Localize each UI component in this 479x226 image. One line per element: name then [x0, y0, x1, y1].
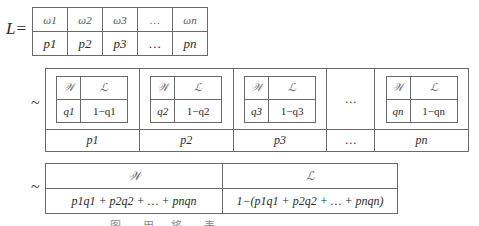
weight-cell: pn	[375, 130, 469, 152]
lose-prob: 1−q2	[175, 99, 222, 122]
weight-cell: p2	[139, 130, 233, 152]
lose-header: ℒ	[269, 76, 316, 99]
sub-lottery-row: 𝒲 ℒ q1 1−q1 𝒲 ℒ q2 1−q2 𝒲 ℒ q3 1−q3	[46, 69, 469, 130]
outcome-cell: …	[138, 8, 173, 32]
outcome-cell: ω3	[103, 8, 138, 32]
win-probability: p1q1 + p2q2 + … + pnqn	[46, 189, 223, 214]
outcome-row: ω1 ω2 ω3 … ωn	[33, 8, 208, 32]
weight-row: p1 p2 p3 … pn	[46, 130, 469, 152]
win-header: 𝒲	[57, 76, 81, 99]
L-equals-label: L=	[6, 19, 27, 39]
probability-cell: p2	[68, 32, 103, 56]
lose-probability: 1−(p1q1 + p2q2 + … + pnqn)	[223, 189, 398, 214]
sub-lottery-table: 𝒲 ℒ qn 1−qn	[386, 76, 458, 123]
figure-caption: 图 … 用 …将 … 表 …	[110, 217, 233, 226]
outcome-cell: ω2	[68, 8, 103, 32]
sub-lottery-table: 𝒲 ℒ q3 1−q3	[244, 76, 316, 123]
probability-cell: pn	[173, 32, 208, 56]
probability-cell: p3	[103, 32, 138, 56]
probability-row: p1 p2 p3 … pn	[33, 32, 208, 56]
weight-cell: p1	[46, 130, 140, 152]
lose-prob: 1−q3	[269, 99, 316, 122]
win-header: 𝒲	[245, 76, 269, 99]
win-header: 𝒲	[46, 164, 223, 189]
compound-lottery-table: 𝒲 ℒ q1 1−q1 𝒲 ℒ q2 1−q2 𝒲 ℒ q3 1−q3	[45, 68, 469, 152]
lose-prob: 1−q1	[81, 99, 128, 122]
sub-lottery-table: 𝒲 ℒ q2 1−q2	[150, 76, 222, 123]
value-row: p1q1 + p2q2 + … + pnqn 1−(p1q1 + p2q2 + …	[46, 189, 398, 214]
weight-cell: p3	[233, 130, 327, 152]
equivalence-tilde: ~	[31, 178, 40, 196]
win-prob: q2	[151, 99, 175, 122]
sub-lottery-cell: 𝒲 ℒ q1 1−q1	[46, 69, 140, 130]
lose-header: ℒ	[81, 76, 128, 99]
lose-header: ℒ	[175, 76, 222, 99]
win-prob: q3	[245, 99, 269, 122]
reduced-lottery-table: 𝒲 ℒ p1q1 + p2q2 + … + pnqn 1−(p1q1 + p2q…	[45, 163, 398, 214]
lose-header: ℒ	[410, 76, 457, 99]
distribution-L-table: ω1 ω2 ω3 … ωn p1 p2 p3 … pn	[32, 7, 208, 56]
probability-cell: p1	[33, 32, 68, 56]
outcome-cell: ωn	[173, 8, 208, 32]
equivalence-tilde: ~	[31, 94, 40, 112]
outcome-cell: ω1	[33, 8, 68, 32]
win-prob: qn	[386, 99, 410, 122]
lose-header: ℒ	[223, 164, 398, 189]
probability-cell: …	[138, 32, 173, 56]
weight-cell: …	[327, 130, 375, 152]
lose-prob: 1−qn	[410, 99, 457, 122]
sub-lottery-table: 𝒲 ℒ q1 1−q1	[56, 76, 128, 123]
win-prob: q1	[57, 99, 81, 122]
sub-lottery-cell: 𝒲 ℒ q2 1−q2	[139, 69, 233, 130]
win-header: 𝒲	[151, 76, 175, 99]
ellipsis-cell: …	[327, 69, 375, 130]
win-header: 𝒲	[386, 76, 410, 99]
header-row: 𝒲 ℒ	[46, 164, 398, 189]
sub-lottery-cell: 𝒲 ℒ qn 1−qn	[375, 69, 469, 130]
sub-lottery-cell: 𝒲 ℒ q3 1−q3	[233, 69, 327, 130]
